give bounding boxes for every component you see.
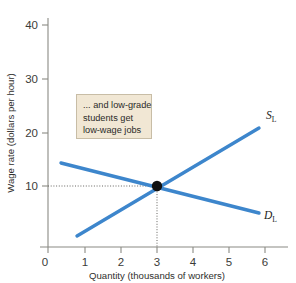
labor-market-chart: 40 30 20 10 0 1 2 3 4 5 6 Quantity (thou… <box>0 0 296 283</box>
x-tick-label-4: 4 <box>190 256 197 268</box>
supply-curve-label: SL <box>266 109 277 124</box>
y-tick-label-20: 20 <box>25 127 38 139</box>
x-tick-label-5: 5 <box>226 256 232 268</box>
y-axis-title: Wage rate (dollars per hour) <box>5 73 16 193</box>
supply-curve <box>77 128 259 236</box>
chart-canvas: 40 30 20 10 0 1 2 3 4 5 6 Quantity (thou… <box>0 0 296 283</box>
x-tick-label-0: 0 <box>42 256 48 268</box>
x-tick-label-1: 1 <box>82 256 88 268</box>
note-line-1: ... and low-grade <box>83 99 146 112</box>
note-line-3: low-wage jobs <box>83 124 146 137</box>
x-tick-label-6: 6 <box>262 256 268 268</box>
equilibrium-point <box>152 181 162 191</box>
note-line-2: students get <box>83 112 146 125</box>
y-tick-label-10: 10 <box>25 180 38 192</box>
x-tick-label-3: 3 <box>154 256 160 268</box>
y-tick-label-30: 30 <box>25 73 38 85</box>
x-axis-title: Quantity (thousands of workers) <box>89 270 225 281</box>
x-tick-label-2: 2 <box>118 256 124 268</box>
annotation-note-box: ... and low-grade students get low-wage … <box>76 94 152 139</box>
demand-curve-label: DL <box>263 209 277 224</box>
y-tick-label-40: 40 <box>25 19 38 31</box>
